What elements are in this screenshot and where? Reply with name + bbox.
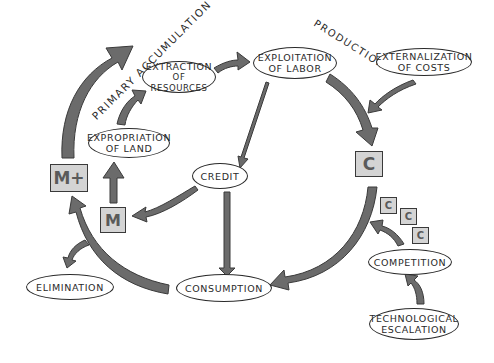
arrow-mplus-to-elimination xyxy=(63,240,89,268)
node-line: CONSUMPTION xyxy=(185,283,263,294)
box-c-main: C xyxy=(355,151,383,177)
arrow-externalization-to-c xyxy=(368,80,416,113)
node-line: OF LABOR xyxy=(258,63,333,74)
node-line: OF COSTS xyxy=(376,62,473,73)
node-extraction-of-resources: EXTRACTIONOF RESOURCES xyxy=(142,61,216,93)
node-line: EXTRACTION xyxy=(143,61,215,72)
node-technological-escalation: TECHNOLOGICALESCALATION xyxy=(369,308,459,340)
arrow-credit-to-consumption xyxy=(219,192,235,276)
arrow-m-to-expropriation xyxy=(103,162,124,203)
node-externalization-of-costs: EXTERNALIZATIONOF COSTS xyxy=(376,48,472,76)
box-c-small-1: C xyxy=(380,197,397,214)
node-credit: CREDIT xyxy=(192,163,248,189)
arrow-exploitation-to-credit xyxy=(238,82,269,168)
node-elimination: ELIMINATION xyxy=(26,274,114,300)
arrow-c-to-consumption xyxy=(270,187,377,290)
node-line: OF RESOURCES xyxy=(143,72,215,94)
node-competition: COMPETITION xyxy=(368,249,452,275)
box-c-small-3: C xyxy=(412,227,429,244)
arrow-credit-to-m xyxy=(132,186,198,222)
node-line: CREDIT xyxy=(201,171,240,182)
node-line: EXTERNALIZATION xyxy=(376,51,473,62)
node-line: TECHNOLOGICAL xyxy=(370,313,459,324)
node-exploitation-of-labor: EXPLOITATIONOF LABOR xyxy=(253,47,337,79)
box-c-small-2: C xyxy=(400,208,417,225)
box-m: M xyxy=(100,207,126,233)
arrow-extraction-to-exploitation xyxy=(214,52,250,73)
arrow-technological-to-competition xyxy=(405,274,424,304)
node-line: ESCALATION xyxy=(370,324,459,335)
node-line: ELIMINATION xyxy=(36,282,104,293)
node-consumption: CONSUMPTION xyxy=(176,274,272,302)
arrow-competition-to-c xyxy=(370,220,404,246)
diagram-canvas: PRIMARY ACCUMULATION PRODUCTION EXTRACTI… xyxy=(0,0,494,363)
box-m-plus: M+ xyxy=(50,164,88,192)
node-line: COMPETITION xyxy=(374,257,446,268)
node-line: EXPROPRIATION xyxy=(87,132,171,143)
node-expropriation-of-land: EXPROPRIATIONOF LAND xyxy=(88,128,170,158)
node-line: EXPLOITATION xyxy=(258,52,333,63)
node-line: OF LAND xyxy=(87,143,171,154)
